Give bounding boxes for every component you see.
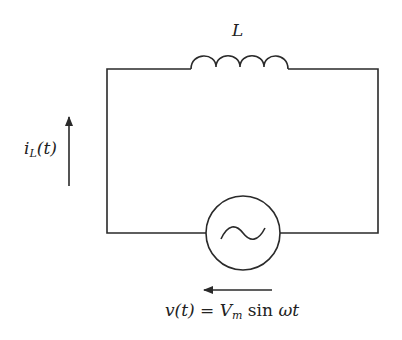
voltage-subscript: m [232, 309, 242, 322]
sine-wave-icon [221, 227, 265, 239]
wire-top-right [280, 69, 378, 233]
current-arg: (t) [37, 138, 57, 158]
wire-top-left [107, 69, 206, 233]
current-subscript: L [29, 147, 36, 160]
voltage-lhs: v(t) = V [165, 300, 232, 320]
inductor-label: L [232, 20, 243, 40]
voltage-label: v(t) = Vm sin ωt [165, 300, 299, 322]
current-label: iL(t) [24, 138, 57, 160]
voltage-fn: sin [242, 300, 278, 320]
circuit-wires [0, 0, 402, 340]
inductor-coil [191, 56, 288, 69]
voltage-var: ωt [278, 300, 299, 320]
circuit-diagram: L iL(t) v(t) = Vm sin ωt [0, 0, 402, 340]
